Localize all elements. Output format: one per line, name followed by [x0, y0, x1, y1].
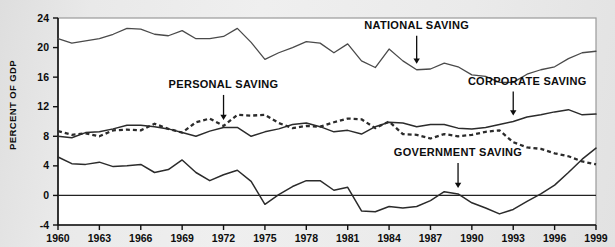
x-tick-label: 1975 [253, 232, 277, 244]
y-tick-label: 20 [37, 41, 49, 53]
x-tick-label: 1993 [502, 232, 526, 244]
annotation-label-personal-saving: PERSONAL SAVING [169, 78, 279, 90]
x-tick-label: 1990 [460, 232, 484, 244]
x-tick-label: 1978 [295, 232, 319, 244]
y-axis-ticks: 24201612840-4 [37, 12, 58, 231]
x-tick-label: 1981 [336, 232, 360, 244]
y-tick-label: 12 [37, 100, 49, 112]
x-tick-label: 1966 [129, 232, 153, 244]
x-tick-label: 1984 [377, 232, 401, 244]
x-tick-label: 1999 [584, 232, 608, 244]
y-tick-label: 8 [43, 130, 49, 142]
y-tick-label: 16 [37, 71, 49, 83]
x-tick-label: 1996 [543, 232, 567, 244]
x-tick-label: 1960 [46, 232, 70, 244]
annotation-label-national-saving: NATIONAL SAVING [364, 19, 469, 31]
x-tick-label: 1969 [170, 232, 194, 244]
annotation-label-corporate-saving: CORPORATE SAVING [468, 75, 587, 87]
x-tick-label: 1963 [88, 232, 112, 244]
y-tick-label: 0 [43, 189, 49, 201]
savings-rate-chart-figure: 24201612840-4 19601963196619691972197519… [0, 0, 615, 247]
x-axis-ticks: 1960196319661969197219751978198119841987… [46, 225, 608, 244]
annotation-label-government-saving: GOVERNMENT SAVING [394, 146, 522, 158]
y-axis-title: PERCENT OF GDP [7, 60, 18, 150]
chart-canvas: 24201612840-4 19601963196619691972197519… [0, 0, 615, 247]
x-tick-label: 1972 [212, 232, 236, 244]
x-tick-label: 1987 [419, 232, 443, 244]
y-tick-label: -4 [40, 219, 49, 231]
y-tick-label: 24 [37, 12, 49, 24]
y-tick-label: 4 [43, 159, 49, 171]
